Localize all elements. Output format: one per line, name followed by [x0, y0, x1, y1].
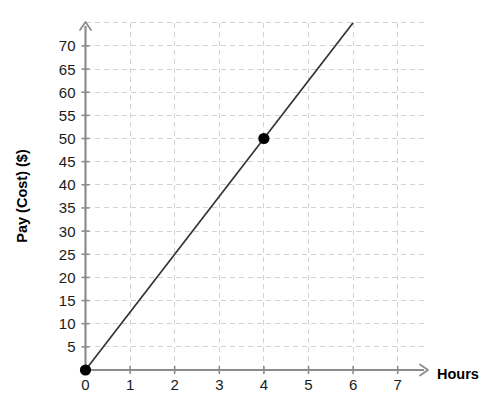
y-tick-label: 25: [59, 246, 76, 263]
x-axis-title: Hours: [437, 366, 479, 382]
y-tick-label: 10: [59, 315, 76, 332]
x-tick-label: 2: [171, 376, 179, 393]
y-tick-label: 70: [59, 37, 76, 54]
trend-line: [86, 23, 354, 370]
x-tick-label: 6: [349, 376, 357, 393]
y-tick-label: 40: [59, 176, 76, 193]
data-series: [80, 23, 353, 376]
data-point-marker: [258, 133, 269, 144]
y-tick-label: 5: [67, 338, 75, 355]
horizontal-gridlines: [86, 23, 426, 347]
chart-container: 510152025303540455055606570 01234567 Hou…: [0, 0, 496, 408]
x-tick-label: 0: [81, 376, 89, 393]
y-tick-label: 15: [59, 292, 76, 309]
y-tick-label: 65: [59, 61, 76, 78]
x-tick-label: 1: [126, 376, 134, 393]
axes: [80, 22, 428, 376]
x-tick-label: 3: [215, 376, 223, 393]
vertical-gridlines: [130, 23, 398, 370]
y-tick-label: 45: [59, 153, 76, 170]
x-tick-label: 4: [260, 376, 268, 393]
y-axis-title: Pay (Cost) ($): [14, 149, 30, 243]
line-chart: 510152025303540455055606570 01234567 Hou…: [0, 0, 496, 408]
x-tick-label: 7: [394, 376, 402, 393]
y-tick-label: 35: [59, 199, 76, 216]
y-tick-label: 50: [59, 130, 76, 147]
y-tick-label: 20: [59, 269, 76, 286]
y-tick-label: 55: [59, 107, 76, 124]
data-point-marker: [80, 364, 91, 375]
y-tick-label: 30: [59, 223, 76, 240]
y-tick-label: 60: [59, 84, 76, 101]
x-tick-label: 5: [304, 376, 312, 393]
